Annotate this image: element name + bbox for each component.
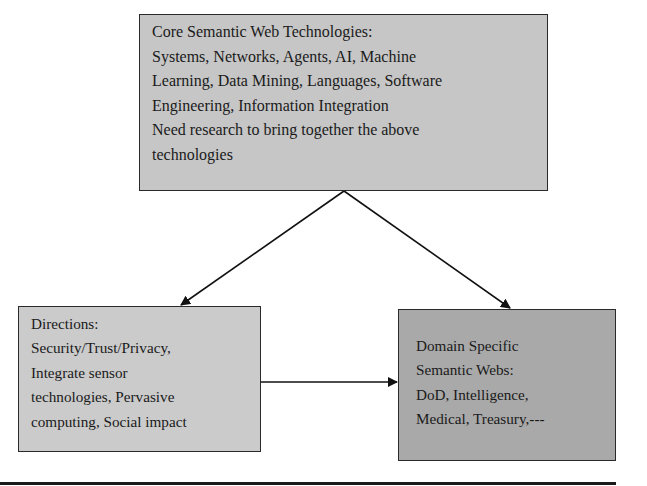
core-line: Engineering, Information Integration bbox=[152, 94, 547, 119]
directions-line: Security/Trust/Privacy, bbox=[31, 336, 260, 360]
core-line: Learning, Data Mining, Languages, Softwa… bbox=[152, 69, 547, 94]
domain-line: Medical, Treasury,--- bbox=[416, 407, 615, 431]
core-title: Core Semantic Web Technologies: bbox=[152, 20, 547, 45]
domain-line: DoD, Intelligence, bbox=[416, 383, 615, 407]
bottom-rule-divider bbox=[0, 482, 616, 485]
directions-line: technologies, Pervasive bbox=[31, 385, 260, 409]
core-line: technologies bbox=[152, 143, 547, 168]
directions-title: Directions: bbox=[31, 312, 260, 336]
core-technologies-box: Core Semantic Web Technologies: Systems,… bbox=[139, 14, 548, 191]
core-line: Systems, Networks, Agents, AI, Machine bbox=[152, 45, 547, 70]
directions-line: Integrate sensor bbox=[31, 361, 260, 385]
arrow-core-to-domain bbox=[344, 191, 510, 308]
domain-specific-box: Domain Specific Semantic Webs: DoD, Inte… bbox=[398, 309, 616, 461]
core-line: Need research to bring together the abov… bbox=[152, 118, 547, 143]
directions-line: computing, Social impact bbox=[31, 410, 260, 434]
directions-box: Directions: Security/Trust/Privacy, Inte… bbox=[18, 306, 261, 452]
domain-title: Semantic Webs: bbox=[416, 358, 615, 382]
arrow-core-to-directions bbox=[181, 191, 344, 305]
domain-title: Domain Specific bbox=[416, 334, 615, 358]
